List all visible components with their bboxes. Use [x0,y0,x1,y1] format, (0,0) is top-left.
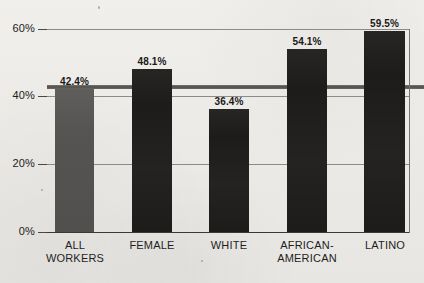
x-axis-baseline [38,232,410,233]
category-label-latino: LATINO [350,239,420,252]
plot-right-border [409,29,410,233]
bar-fill-white [209,109,249,232]
category-label-all-workers: ALLWORKERS [40,239,110,265]
y-tick-mark-20 [38,164,47,165]
y-axis-label-20: 20% [0,157,35,169]
bar-chart: 60% 40% 20% 0% 42.4% ALLWORKERS 48.1% FE… [0,0,424,283]
y-axis-label-60: 60% [0,22,35,34]
category-label-all-workers-line2: WORKERS [46,252,104,264]
scan-speck [41,189,43,191]
gridline-60 [47,29,410,30]
bar-fill-all-workers [55,89,94,232]
bar-value-all-workers: 42.4% [49,76,100,87]
scan-speck [201,260,203,262]
category-label-african-american-line1: AFRICAN- [280,239,334,251]
bar-white [209,109,249,232]
bar-value-white: 36.4% [203,96,255,107]
bar-african-american [287,49,327,232]
category-label-female: FEMALE [117,239,187,252]
category-label-latino-line1: LATINO [365,239,405,251]
y-tick-mark-40 [38,96,47,97]
bar-all-workers [55,89,94,232]
bar-latino [364,31,405,232]
category-label-african-american-line2: AMERICAN [277,252,337,264]
category-label-female-line1: FEMALE [129,239,174,251]
bar-value-latino: 59.5% [358,18,411,29]
bar-female [132,69,172,232]
y-axis-label-0: 0% [0,225,35,237]
bar-value-female: 48.1% [126,56,178,67]
bar-fill-african-american [287,49,327,232]
category-label-all-workers-line1: ALL [65,239,85,251]
y-axis-label-40: 40% [0,89,35,101]
y-tick-mark-0 [38,232,47,233]
y-tick-mark-60 [38,29,47,30]
bar-value-african-american: 54.1% [281,36,333,47]
scan-speck [98,6,100,9]
category-label-african-american: AFRICAN-AMERICAN [272,239,342,265]
category-label-white-line1: WHITE [211,239,247,251]
category-label-white: WHITE [194,239,264,252]
bar-fill-female [132,69,172,232]
bar-fill-latino [364,31,405,232]
